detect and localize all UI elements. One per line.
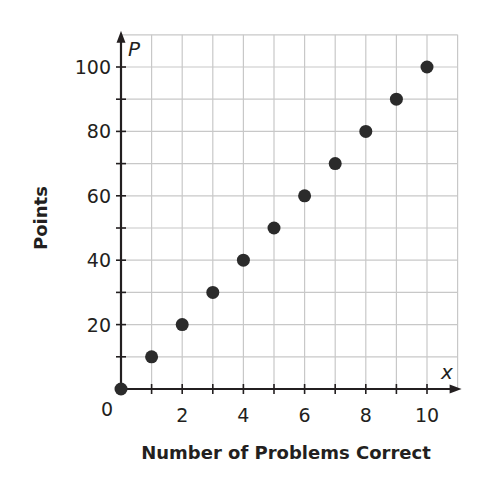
y-tick-label: 20	[87, 314, 111, 336]
origin-label: 0	[101, 398, 113, 420]
y-tick-label: 80	[87, 120, 111, 142]
data-point	[176, 318, 189, 331]
x-tick-label: 8	[360, 404, 372, 426]
x-axis-arrow-icon	[450, 385, 462, 394]
x-variable-label: x	[440, 360, 453, 384]
x-tick-label: 2	[176, 404, 188, 426]
data-point	[421, 61, 434, 74]
y-tick-label: 40	[87, 249, 111, 271]
data-point	[115, 383, 128, 396]
data-point	[329, 157, 342, 170]
y-variable-label: P	[128, 37, 141, 61]
y-tick-label: 60	[87, 185, 111, 207]
x-tick-label: 10	[415, 404, 439, 426]
data-point	[390, 93, 403, 106]
data-point	[359, 125, 372, 138]
data-point	[145, 350, 158, 363]
axes	[117, 31, 462, 394]
data-point	[237, 254, 250, 267]
y-axis-title: Points	[30, 186, 51, 250]
tick-labels: 24681020406080100	[75, 56, 439, 426]
scatter-chart: 24681020406080100 P x 0 Number of Proble…	[0, 0, 479, 483]
y-tick-label: 100	[75, 56, 111, 78]
x-tick-label: 4	[237, 404, 249, 426]
data-point	[298, 189, 311, 202]
grid-lines	[121, 35, 458, 389]
x-axis-title: Number of Problems Correct	[141, 442, 431, 463]
x-tick-label: 6	[299, 404, 311, 426]
data-point	[206, 286, 219, 299]
y-axis-arrow-icon	[117, 31, 126, 43]
data-point	[268, 222, 281, 235]
